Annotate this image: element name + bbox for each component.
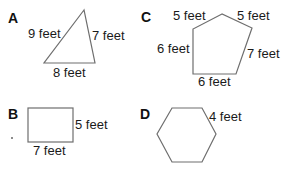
pentagon-left-label: 6 feet — [157, 42, 190, 55]
rectangle-bottom-label: 7 feet — [33, 144, 66, 157]
figure-a-letter: A — [8, 11, 18, 25]
triangle-side-bottom-label: 8 feet — [53, 66, 86, 79]
stray-dot — [11, 137, 13, 139]
hexagon-d — [157, 108, 216, 162]
pentagon-top-right-label: 5 feet — [237, 9, 270, 22]
pentagon-bottom-label: 6 feet — [198, 75, 231, 88]
figure-b-letter: B — [8, 107, 18, 121]
pentagon-c — [193, 14, 252, 74]
figure-d-letter: D — [140, 107, 150, 121]
triangle-side-right-label: 7 feet — [92, 29, 125, 42]
pentagon-right-label: 7 feet — [247, 47, 280, 60]
rectangle-b — [28, 108, 73, 142]
pentagon-top-left-label: 5 feet — [173, 9, 206, 22]
figure-c-letter: C — [141, 10, 151, 24]
rectangle-right-label: 5 feet — [75, 118, 108, 131]
triangle-side-left-label: 9 feet — [28, 27, 61, 40]
hexagon-side-label: 4 feet — [209, 110, 242, 123]
